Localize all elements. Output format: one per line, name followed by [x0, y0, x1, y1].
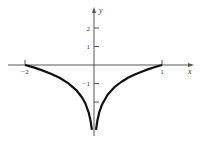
- chart: x y −2121−1: [0, 0, 209, 141]
- x-tick-label: −2: [21, 68, 29, 76]
- curve-right-branch: [96, 65, 162, 130]
- x-tick-label: 1: [160, 68, 164, 76]
- y-axis-label: y: [98, 6, 103, 15]
- y-tick-label: 2: [87, 25, 91, 33]
- y-tick-label: −1: [83, 80, 91, 88]
- curve-left-branch: [25, 65, 92, 130]
- x-axis-label: x: [187, 67, 192, 76]
- y-tick-label: 1: [87, 43, 91, 51]
- y-axis-arrow: [92, 7, 96, 13]
